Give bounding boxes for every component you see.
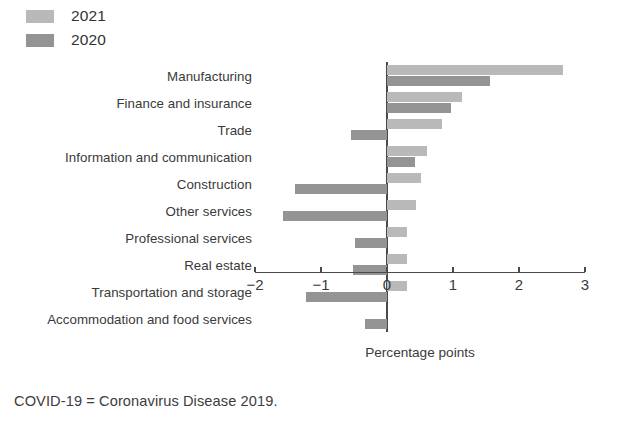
bar-2021-other-services [387,200,416,211]
axis-tick-mark [518,267,519,272]
axis-tick-mark [452,267,453,272]
axis-tick-mark [584,267,585,272]
bar-2021-trade [387,119,442,130]
footnote: COVID-19 = Coronavirus Disease 2019. [14,393,278,409]
axis-tick-label: −1 [312,276,329,293]
legend-entry: 2021 [26,4,226,28]
legend-swatch-2020 [26,34,54,47]
axis-line [255,272,585,273]
axis-tick-mark [386,267,387,272]
value-axis: −2−10123 [255,272,585,312]
category-label: Information and communication [65,149,252,164]
category-label: Finance and insurance [116,95,252,110]
category-label: Manufacturing [167,68,252,83]
bar-2020-trade [351,130,387,141]
legend-label-2021: 2021 [71,7,106,25]
bar-2020-accommodation-and-food-services [365,319,387,330]
axis-tick-label: 0 [383,276,391,293]
legend-entry: 2020 [26,28,226,52]
bar-2020-other-services [283,211,387,222]
axis-tick-label: 2 [515,276,523,293]
bar-2021-information-and-communication [387,146,427,157]
category-label: Construction [177,176,252,191]
bar-2020-construction [295,184,387,195]
legend-swatch-2021 [26,10,54,23]
bar-2020-professional-services [355,238,387,249]
axis-title: Percentage points [255,345,585,360]
bar-2021-construction [387,173,421,184]
category-label: Other services [166,203,252,218]
category-label: Transportation and storage [92,284,252,299]
bar-2021-finance-and-insurance [387,92,462,103]
legend-label-2020: 2020 [71,31,106,49]
category-label: Trade [218,122,253,137]
bar-2021-manufacturing [387,65,563,76]
bar-2020-finance-and-insurance [387,103,451,114]
category-label: Real estate [184,257,252,272]
bar-2020-information-and-communication [387,157,415,168]
bar-2021-professional-services [387,227,407,238]
bar-2021-real-estate [387,254,407,265]
chart-legend: 2021 2020 [26,4,226,52]
axis-tick-mark [320,267,321,272]
category-label: Accommodation and food services [47,311,252,326]
axis-tick-label: 3 [581,276,589,293]
bar-2020-manufacturing [387,76,490,87]
axis-tick-label: 1 [449,276,457,293]
axis-tick-mark [254,267,255,272]
axis-tick-label: −2 [246,276,263,293]
category-axis-labels: ManufacturingFinance and insuranceTradeI… [0,62,252,332]
category-label: Professional services [125,230,252,245]
